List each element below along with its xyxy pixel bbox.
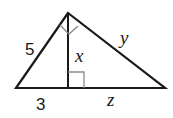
label-right-segment: z xyxy=(106,89,115,110)
label-left-segment: 3 xyxy=(36,95,45,114)
label-right-leg: y xyxy=(118,27,129,48)
diagram-canvas: 5 x y 3 z xyxy=(0,0,173,118)
label-altitude: x xyxy=(74,45,84,66)
triangle-diagram: 5 x y 3 z xyxy=(0,0,173,118)
right-angle-mark-base xyxy=(68,72,84,88)
outer-triangle xyxy=(16,13,165,88)
label-left-leg: 5 xyxy=(25,40,34,59)
